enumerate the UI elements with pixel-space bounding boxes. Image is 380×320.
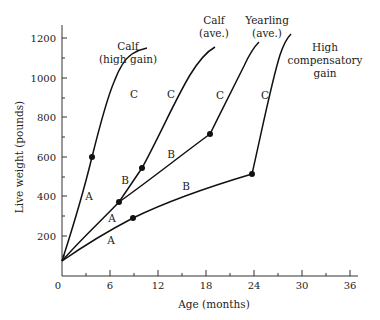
y-tick-label: 1200 bbox=[31, 33, 56, 44]
phase-label-c: C bbox=[261, 89, 269, 101]
y-tick-labels: 200 400 600 800 1000 1200 bbox=[31, 33, 56, 242]
phase-label-b: B bbox=[121, 174, 129, 186]
curve-calf-average bbox=[62, 47, 215, 261]
x-tick-label: 30 bbox=[296, 280, 309, 291]
label-yearling-line1: Yearling bbox=[244, 14, 289, 26]
break-point bbox=[89, 154, 95, 160]
origin-label: 0 bbox=[55, 280, 61, 291]
label-calf-high-line1: Calf bbox=[117, 40, 140, 52]
curve-labels: Calf (high gain) Calf (ave.) Yearling (a… bbox=[99, 14, 363, 79]
break-point bbox=[139, 165, 145, 171]
x-tick-label: 36 bbox=[344, 280, 357, 291]
phase-label-a: A bbox=[84, 190, 93, 202]
curve-calf-high-gain bbox=[62, 48, 147, 261]
phase-label-c: C bbox=[167, 88, 175, 100]
x-axis-title: Age (months) bbox=[177, 298, 249, 310]
label-high-comp-line1: High bbox=[312, 41, 338, 53]
label-calf-ave-line1: Calf bbox=[203, 14, 226, 26]
label-calf-ave-line2: (ave.) bbox=[199, 27, 229, 39]
curves bbox=[62, 34, 291, 261]
y-tick-label: 800 bbox=[37, 112, 56, 123]
break-point bbox=[130, 215, 136, 221]
x-tick-label: 6 bbox=[107, 280, 113, 291]
y-tick-label: 400 bbox=[37, 191, 56, 202]
y-tick-label: 200 bbox=[37, 231, 56, 242]
phase-label-b: B bbox=[167, 148, 175, 160]
break-point bbox=[207, 131, 213, 137]
x-tick-label: 18 bbox=[200, 280, 213, 291]
phase-label-b: B bbox=[182, 180, 190, 192]
phase-labels: A A A B B B C C C C bbox=[84, 88, 269, 246]
label-high-comp-line3: gain bbox=[313, 67, 336, 79]
label-yearling-line2: (ave.) bbox=[252, 27, 282, 39]
curve-high-compensatory bbox=[62, 34, 291, 261]
y-tick-label: 600 bbox=[37, 152, 56, 163]
y-tick-label: 1000 bbox=[31, 73, 56, 84]
y-axis-title: Live weight (pounds) bbox=[13, 101, 25, 213]
break-point bbox=[249, 171, 255, 177]
phase-label-a: A bbox=[107, 212, 116, 224]
phase-label-c: C bbox=[216, 89, 224, 101]
break-point bbox=[116, 199, 122, 205]
x-tick-label: 12 bbox=[152, 280, 165, 291]
phase-label-c: C bbox=[130, 88, 138, 100]
label-calf-high-line2: (high gain) bbox=[99, 53, 157, 65]
growth-chart: 200 400 600 800 1000 1200 0 6 12 18 24 3… bbox=[0, 0, 380, 320]
x-tick-label: 24 bbox=[248, 280, 261, 291]
x-tick-labels: 0 6 12 18 24 30 36 bbox=[55, 280, 357, 291]
phase-label-a: A bbox=[106, 234, 115, 246]
label-high-comp-line2: compensatory bbox=[288, 54, 363, 66]
